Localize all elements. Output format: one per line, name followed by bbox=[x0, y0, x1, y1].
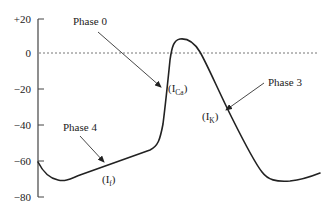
tick-label-minus20: −20 bbox=[14, 83, 32, 95]
phase3-label: Phase 3 bbox=[268, 76, 302, 88]
tick-label-minus40: −40 bbox=[14, 119, 32, 131]
tick-label-minus60: −60 bbox=[14, 155, 32, 167]
phase0-label: Phase 0 bbox=[73, 15, 107, 27]
phase3-arrow bbox=[226, 83, 264, 110]
phase0-current: (ICa) bbox=[168, 82, 188, 97]
phase3-current: (IK) bbox=[202, 110, 219, 125]
phase3-annotation: Phase 3 (IK) bbox=[202, 76, 302, 125]
action-potential-curve bbox=[38, 39, 320, 181]
tick-label-plus20: +20 bbox=[14, 13, 32, 25]
action-potential-diagram: +20 0 −20 −40 −60 −80 Phase 0 (ICa) Phas… bbox=[0, 0, 332, 207]
tick-label-minus80: −80 bbox=[14, 191, 32, 203]
y-axis: +20 0 −20 −40 −60 −80 bbox=[14, 13, 44, 203]
phase0-arrow bbox=[98, 32, 161, 87]
phase4-label: Phase 4 bbox=[63, 121, 97, 133]
tick-label-0: 0 bbox=[26, 47, 32, 59]
phase4-current: (If) bbox=[102, 173, 116, 188]
phase4-arrow bbox=[80, 136, 104, 162]
